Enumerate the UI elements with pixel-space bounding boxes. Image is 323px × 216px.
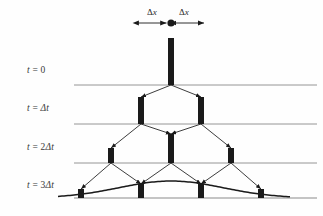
time-label-equals: = — [30, 103, 41, 113]
bar-t2-x1 — [168, 134, 174, 163]
delta-x-label-right: Δx — [179, 7, 189, 17]
bar-t3-x1 — [138, 184, 144, 198]
probability-bar-group — [78, 38, 264, 198]
origin-dot-icon — [167, 19, 174, 26]
bar-t2-x0 — [108, 148, 114, 163]
time-label-equals: = — [30, 142, 41, 152]
time-label-t3: t = 3Δt — [27, 180, 54, 190]
delta-x-label-left: Δx — [147, 7, 157, 17]
envelope-path — [58, 181, 290, 197]
time-label-equals: = — [30, 180, 41, 190]
transition-arrow-6 — [81, 163, 111, 189]
bar-t1-x1 — [198, 97, 204, 124]
delta-x-ruler — [138, 19, 204, 26]
bar-t3-x3 — [258, 189, 264, 198]
time-label-equals: = — [30, 65, 41, 75]
bar-t2-x2 — [228, 148, 234, 163]
transition-arrow-5 — [201, 124, 231, 148]
bar-t3-x2 — [198, 184, 204, 198]
bar-t0-x0 — [168, 38, 174, 85]
time-label-value: Δt — [41, 103, 50, 113]
bar-t1-x0 — [138, 97, 144, 124]
gaussian-envelope-curve — [58, 181, 290, 197]
transition-arrow-0 — [141, 85, 171, 97]
transition-arrow-11 — [231, 163, 261, 189]
transition-arrow-4 — [171, 124, 201, 134]
transition-arrow-7 — [111, 163, 141, 184]
time-label-value: 2Δt — [41, 142, 55, 152]
bar-t3-x0 — [78, 189, 84, 198]
time-label-t2: t = 2Δt — [27, 142, 54, 152]
transition-arrow-1 — [171, 85, 201, 97]
time-label-t1: t = Δt — [27, 103, 49, 113]
transition-arrow-10 — [201, 163, 231, 184]
time-label-value: 0 — [41, 65, 46, 75]
time-label-t0: t = 0 — [27, 65, 46, 75]
transition-arrow-3 — [141, 124, 171, 134]
random-walk-diagram: t = 0 t = Δt t = 2Δt t = 3Δt Δx Δx — [0, 0, 323, 216]
transition-arrow-2 — [111, 124, 141, 148]
gridline-group — [74, 85, 317, 198]
time-label-value: 3Δt — [41, 180, 55, 190]
